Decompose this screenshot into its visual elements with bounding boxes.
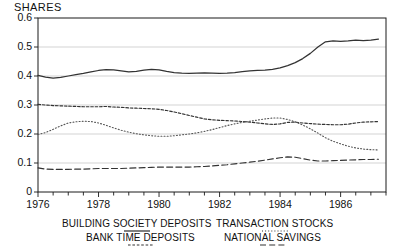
legend-label: TRANSACTION STOCKS <box>216 218 333 229</box>
x-tick-label: 1986 <box>321 198 361 210</box>
y-tick-label: 0.4 <box>2 69 32 81</box>
line-chart-plot <box>0 0 401 251</box>
x-tick-label: 1976 <box>18 198 58 210</box>
chart-root: SHARES 0.60.50.40.30.20.10 1976197819801… <box>0 0 401 251</box>
x-tick-label: 1980 <box>139 198 179 210</box>
y-tick-label: 0.6 <box>2 11 32 23</box>
y-tick-label: 0 <box>2 185 32 197</box>
legend-label: NATIONAL SAVINGS <box>224 232 321 243</box>
x-tick-label: 1978 <box>79 198 119 210</box>
x-tick-label: 1984 <box>260 198 300 210</box>
y-tick-label: 0.2 <box>2 127 32 139</box>
x-tick-label: 1982 <box>200 198 240 210</box>
series-line-1 <box>38 39 378 78</box>
y-tick-label: 0.3 <box>2 98 32 110</box>
y-tick-label: 0.1 <box>2 156 32 168</box>
legend-line-sample <box>260 243 286 246</box>
legend-label: BUILDING SOCIETY DEPOSITS <box>62 218 212 229</box>
y-tick-label: 0.5 <box>2 40 32 52</box>
legend-line-sample <box>128 243 154 246</box>
legend-label: BANK TIME DEPOSITS <box>86 232 195 243</box>
